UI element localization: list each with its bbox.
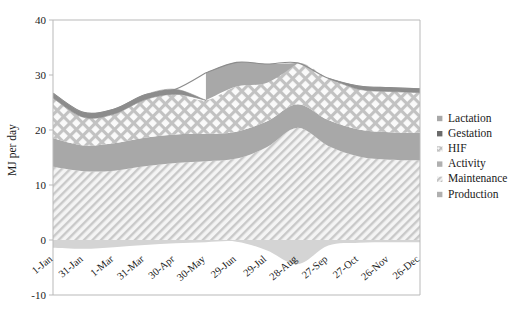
y-tick-label: -10 [31,289,46,301]
y-tick-label: 40 [35,14,47,26]
legend-swatch-lactation [437,116,442,121]
y-tick-label: 30 [35,69,47,81]
y-tick-label: 0 [41,234,47,246]
chart-root: 403020100-10 1-Jan31-Jan1-Mar31-Mar30-Ap… [0,0,525,322]
legend-swatch-activity [437,161,442,166]
legend: LactationGestationHIFActivityMaintenance… [437,112,507,200]
legend-label-hif: HIF [448,142,467,154]
legend-swatch-maintenance [437,177,442,182]
y-tick-label: 20 [35,124,47,136]
legend-label-gestation: Gestation [448,127,492,139]
legend-label-production: Production [448,188,499,200]
legend-label-maintenance: Maintenance [448,172,507,184]
legend-swatch-production [437,192,442,197]
x-tick-label: 1-Jan [30,253,55,277]
legend-label-activity: Activity [448,157,486,170]
legend-swatch-gestation [437,131,442,136]
y-axis-title: MJ per day [6,124,19,176]
stacked-area-chart: 403020100-10 1-Jan31-Jan1-Mar31-Mar30-Ap… [0,0,525,322]
y-tick-label: 10 [35,179,47,191]
legend-label-lactation: Lactation [448,112,492,124]
legend-swatch-hif [437,146,442,151]
